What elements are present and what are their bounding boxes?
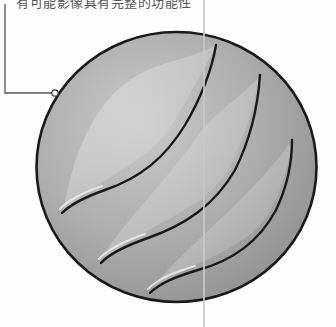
page-fold-divider xyxy=(203,0,205,327)
sphere-illustration xyxy=(0,0,336,327)
illustration-page: 有可能影像具有完整的功能性 xyxy=(0,0,336,327)
callout-anchor-dot xyxy=(52,90,58,96)
